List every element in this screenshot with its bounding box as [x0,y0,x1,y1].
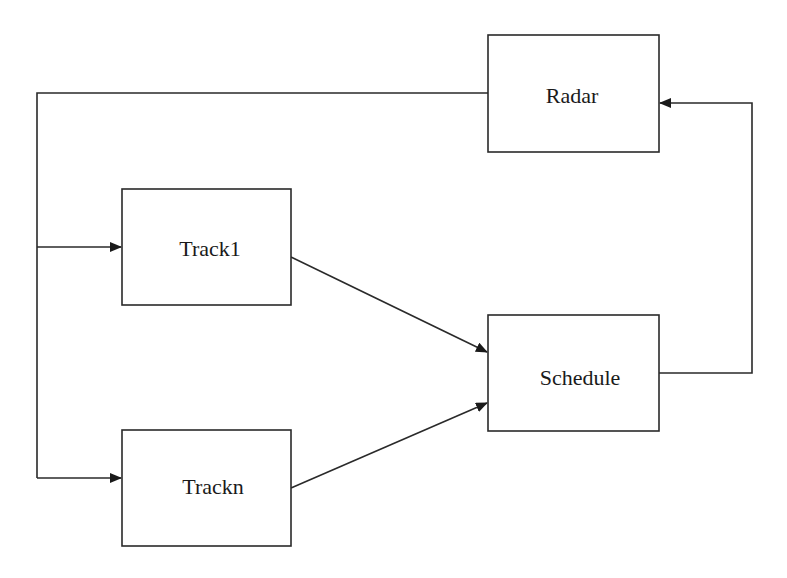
radar-label: Radar [546,83,599,108]
node-schedule[interactable]: Schedule [488,315,659,431]
node-trackn[interactable]: Trackn [122,430,291,546]
block-diagram: Radar Track1 Trackn Schedule [0,0,787,578]
track1-label: Track1 [179,236,241,261]
schedule-label: Schedule [540,365,621,390]
trackn-label: Trackn [182,474,244,499]
edge-track1-to-schedule [291,257,487,352]
node-track1[interactable]: Track1 [122,189,291,305]
edge-schedule-to-radar [659,103,752,373]
edge-trackn-to-schedule [291,403,487,488]
node-radar[interactable]: Radar [488,35,659,152]
